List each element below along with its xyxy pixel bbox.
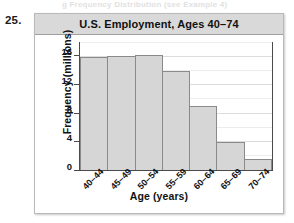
y-tick-label: 0 [67, 161, 72, 172]
bar [244, 159, 272, 170]
page-running-text: g Frequency Distribution (see Example 4) [62, 0, 294, 9]
bar [107, 56, 135, 170]
x-tick-label: 60–64 [191, 167, 216, 192]
x-tick-label: 70–74 [247, 167, 272, 192]
y-tick-label: 4 [67, 132, 72, 143]
chart-title: U.S. Employment, Ages 40–74 [79, 18, 238, 30]
x-tick-label: 40–44 [80, 167, 105, 192]
bar [80, 57, 108, 170]
x-tick-label: 50–54 [136, 167, 161, 192]
exercise-number: 25. [5, 14, 22, 26]
x-tick-label: 45–49 [108, 167, 133, 192]
bar [216, 142, 244, 170]
x-tick-label: 55–59 [164, 167, 189, 192]
y-tick-label: 12 [61, 75, 72, 86]
x-axis-title: Age (years) [35, 190, 283, 202]
y-tick-label: 16 [61, 46, 72, 57]
plot-area [79, 42, 273, 171]
bar-series [80, 43, 272, 170]
x-tick-label: 65–69 [219, 167, 244, 192]
figure-card: U.S. Employment, Ages 40–74 Frequency (m… [34, 13, 284, 214]
bar [135, 55, 163, 170]
y-axis-ticks: 0481216 [35, 42, 79, 171]
bar [189, 106, 217, 170]
bar [162, 71, 190, 170]
y-tick-label: 8 [67, 103, 72, 114]
